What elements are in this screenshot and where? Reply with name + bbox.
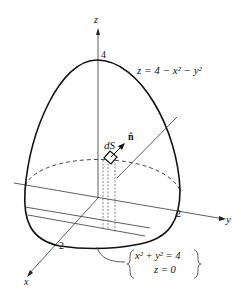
y-tick-2: 2 <box>176 208 181 219</box>
x-tick-2: 2 <box>59 240 64 251</box>
z-axis-label: z <box>94 14 98 25</box>
z-axis-arrow <box>96 28 100 35</box>
y-axis <box>14 183 224 219</box>
z-tick-4: 4 <box>101 49 106 60</box>
boundary-equation-1: x² + y² = 4 <box>135 250 181 261</box>
dS-label: dS <box>104 139 115 151</box>
paraboloid-diagram: z 4 z = 4 − x² − y² dS n̂ y 2 2 x x² + y… <box>0 0 241 292</box>
y-axis-label: y <box>226 213 231 225</box>
normal-label: n̂ <box>128 131 134 142</box>
diagram-graphics <box>0 0 241 292</box>
boundary-equation-2: z = 0 <box>154 264 176 275</box>
y-axis-arrow <box>219 216 226 221</box>
base-circle-back <box>25 159 180 190</box>
x-axis-label: x <box>24 276 28 287</box>
surface-equation: z = 4 − x² − y² <box>137 64 202 76</box>
